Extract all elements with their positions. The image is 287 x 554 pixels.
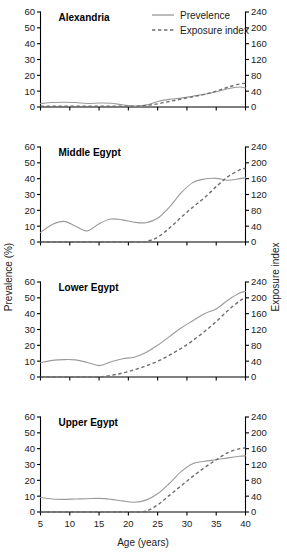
right-tick-label: 40 — [251, 491, 262, 502]
legend: PrevelenceExposure index — [152, 10, 249, 36]
left-tick-label: 0 — [30, 236, 35, 247]
left-tick-label: 40 — [24, 443, 35, 454]
x-tick-label: 25 — [152, 518, 163, 529]
x-tick-label: 35 — [211, 518, 222, 529]
x-tick-label: 15 — [94, 518, 105, 529]
left-tick-label: 60 — [24, 411, 35, 422]
left-tick-label: 30 — [24, 324, 35, 335]
panel-alexandria: 010203040506004080120160200240Alexandria — [24, 6, 266, 112]
left-tick-label: 40 — [24, 173, 35, 184]
right-tick-label: 240 — [251, 411, 267, 422]
x-tick-label: 30 — [182, 518, 193, 529]
right-tick-label: 240 — [251, 141, 267, 152]
y-axis-title-right: Exposure index — [270, 243, 281, 312]
left-tick-label: 10 — [24, 356, 35, 367]
panel-title: Middle Egypt — [59, 147, 122, 158]
left-tick-label: 50 — [24, 157, 35, 168]
series-line-prevalence — [41, 292, 246, 366]
series-line-prevalence — [41, 178, 246, 233]
right-tick-label: 40 — [251, 86, 262, 97]
x-tick-label: 20 — [123, 518, 134, 529]
right-tick-label: 80 — [251, 205, 262, 216]
x-tick-label: 40 — [240, 518, 251, 529]
axis-titles: Age (years)Prevalence (%)Exposure index — [3, 243, 281, 548]
panel-title: Alexandria — [59, 12, 111, 23]
left-tick-label: 50 — [24, 427, 35, 438]
series-line-prevalence — [41, 456, 246, 502]
left-tick-label: 10 — [24, 491, 35, 502]
right-tick-label: 80 — [251, 70, 262, 81]
right-tick-label: 160 — [251, 443, 267, 454]
left-tick-label: 60 — [24, 276, 35, 287]
series-line-exposure-index — [41, 448, 246, 512]
right-tick-label: 240 — [251, 6, 267, 17]
right-tick-label: 200 — [251, 292, 267, 303]
y-axis-title-left: Prevalence (%) — [3, 243, 14, 311]
left-tick-label: 50 — [24, 22, 35, 33]
right-tick-label: 120 — [251, 189, 267, 200]
series-line-exposure-index — [41, 168, 246, 242]
figure-container: 010203040506004080120160200240Alexandria… — [0, 0, 287, 554]
right-tick-label: 80 — [251, 475, 262, 486]
x-tick-label: 10 — [64, 518, 75, 529]
left-tick-label: 0 — [30, 101, 35, 112]
x-axis-title: Age (years) — [117, 537, 169, 548]
left-tick-label: 40 — [24, 308, 35, 319]
left-tick-label: 10 — [24, 221, 35, 232]
left-tick-label: 20 — [24, 70, 35, 81]
left-tick-label: 30 — [24, 459, 35, 470]
legend-label-exposure-index: Exposure index — [180, 25, 249, 36]
left-tick-label: 0 — [30, 371, 35, 382]
panel-middle-egypt: 010203040506004080120160200240Middle Egy… — [24, 141, 266, 247]
right-tick-label: 0 — [251, 371, 256, 382]
right-tick-label: 80 — [251, 340, 262, 351]
panel-upper-egypt: 0102030405060040801201602002405101520253… — [24, 411, 266, 528]
right-tick-label: 0 — [251, 236, 256, 247]
panel-title: Lower Egypt — [59, 282, 120, 293]
right-tick-label: 200 — [251, 427, 267, 438]
panel-title: Upper Egypt — [59, 417, 119, 428]
left-tick-label: 60 — [24, 141, 35, 152]
right-tick-label: 160 — [251, 173, 267, 184]
right-tick-label: 120 — [251, 54, 267, 65]
left-tick-label: 0 — [30, 506, 35, 517]
left-tick-label: 30 — [24, 54, 35, 65]
left-tick-label: 30 — [24, 189, 35, 200]
right-tick-label: 40 — [251, 221, 262, 232]
right-tick-label: 160 — [251, 38, 267, 49]
right-tick-label: 120 — [251, 459, 267, 470]
right-tick-label: 240 — [251, 276, 267, 287]
series-line-prevalence — [41, 87, 246, 106]
right-tick-label: 40 — [251, 356, 262, 367]
left-tick-label: 20 — [24, 475, 35, 486]
left-tick-label: 20 — [24, 340, 35, 351]
left-tick-label: 50 — [24, 292, 35, 303]
right-tick-label: 0 — [251, 506, 256, 517]
multi-panel-line-chart: 010203040506004080120160200240Alexandria… — [0, 0, 287, 554]
right-tick-label: 200 — [251, 157, 267, 168]
left-tick-label: 60 — [24, 6, 35, 17]
right-tick-label: 120 — [251, 324, 267, 335]
x-tick-label: 5 — [38, 518, 43, 529]
right-tick-label: 160 — [251, 308, 267, 319]
left-tick-label: 10 — [24, 86, 35, 97]
left-tick-label: 20 — [24, 205, 35, 216]
left-tick-label: 40 — [24, 38, 35, 49]
legend-label-prevalence: Prevelence — [180, 10, 230, 21]
right-tick-label: 200 — [251, 22, 267, 33]
right-tick-label: 0 — [251, 101, 256, 112]
panel-lower-egypt: 010203040506004080120160200240Lower Egyp… — [24, 276, 266, 382]
